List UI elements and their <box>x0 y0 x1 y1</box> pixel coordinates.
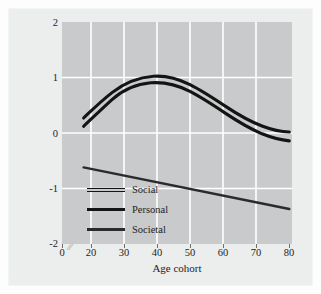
legend-swatch-personal-icon <box>87 208 125 211</box>
plot-area: Social Personal Societal <box>62 22 292 244</box>
x-tick-label-70: 70 <box>241 247 271 258</box>
chart-legend: Social Personal Societal <box>87 184 168 235</box>
x-tick-label-40: 40 <box>142 247 172 258</box>
x-tick-label-60: 60 <box>208 247 238 258</box>
legend-swatch-social-icon <box>87 188 125 192</box>
legend-swatch-societal-icon <box>87 228 125 230</box>
legend-label-social: Social <box>132 184 158 195</box>
x-tick-label-0: 0 <box>47 247 77 258</box>
x-tick-label-30: 30 <box>109 247 139 258</box>
legend-item-personal: Personal <box>87 204 168 215</box>
legend-item-social: Social <box>87 184 168 195</box>
legend-label-societal: Societal <box>132 224 166 235</box>
x-tick-label-50: 50 <box>175 247 205 258</box>
chart-figure: 2 1 0 -1 -2 0 20 30 40 50 60 70 80 // <box>0 0 321 294</box>
x-tick-label-20: 20 <box>76 247 106 258</box>
legend-label-personal: Personal <box>132 204 168 215</box>
legend-item-societal: Societal <box>87 224 168 235</box>
x-tick-label-80: 80 <box>274 247 304 258</box>
x-axis-title: Age cohort <box>62 262 292 274</box>
series-line-social <box>84 76 290 132</box>
